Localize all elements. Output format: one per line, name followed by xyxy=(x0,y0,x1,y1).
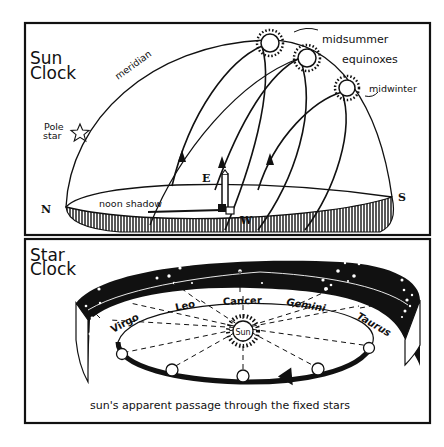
star-clock-title: Star Clock xyxy=(30,245,76,279)
gnomon-base xyxy=(226,207,234,214)
sun-clock-panel: Sun Clock xyxy=(25,23,430,235)
south-label: S xyxy=(398,191,406,204)
noon-shadow-label: noon shadow xyxy=(99,198,162,209)
midwinter-label: midwinter xyxy=(369,83,417,94)
sun-and-star-clock-diagram: Sun Clock xyxy=(0,0,444,447)
east-label: E xyxy=(202,172,210,185)
north-label: N xyxy=(41,203,51,216)
star-clock-caption: sun's apparent passage through the fixed… xyxy=(90,399,350,412)
gnomon-base-shadow xyxy=(218,204,226,212)
equinoxes-label: equinoxes xyxy=(342,53,398,66)
sun-label: Sun xyxy=(235,328,250,337)
star-clock-panel: Star Clock Virgo Leo Can xyxy=(25,239,430,423)
west-label: W xyxy=(239,214,253,227)
midsummer-label: midsummer xyxy=(322,33,389,46)
constellation-cancer: Cancer xyxy=(223,295,262,307)
